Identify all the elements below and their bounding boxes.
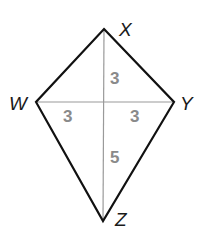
length-label-left: 3 <box>63 107 72 126</box>
vertex-label-x: X <box>118 19 133 40</box>
kite-outline <box>36 29 174 221</box>
kite-diagram: X Y Z W 3 3 3 5 <box>0 0 200 234</box>
vertex-label-w: W <box>9 93 29 114</box>
length-label-upper: 3 <box>110 69 119 88</box>
vertex-label-z: Z <box>114 209 128 230</box>
diagonal-xz <box>103 29 104 221</box>
length-label-lower: 5 <box>110 148 119 167</box>
vertex-label-y: Y <box>180 93 194 114</box>
length-label-right: 3 <box>130 107 139 126</box>
